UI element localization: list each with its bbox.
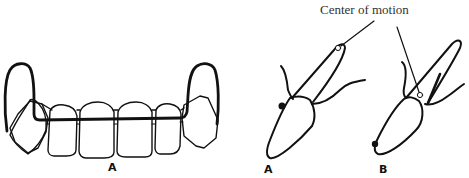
center-of-motion-caption: Center of motion [320,3,409,16]
dot-b [372,141,378,147]
label-right-a: A [264,164,273,175]
center-of-motion-b [417,92,422,97]
arch-wire [5,64,218,131]
leader-line-a [341,21,374,46]
center-of-motion-a [335,45,340,50]
tooth-a [267,44,365,158]
label-right-b: B [379,164,387,175]
leader-line-b [397,27,419,92]
figure-canvas: Center of motion A A B [0,0,469,178]
label-left-a: A [108,162,117,173]
dot-a [279,103,286,110]
dental-diagram [0,0,469,178]
